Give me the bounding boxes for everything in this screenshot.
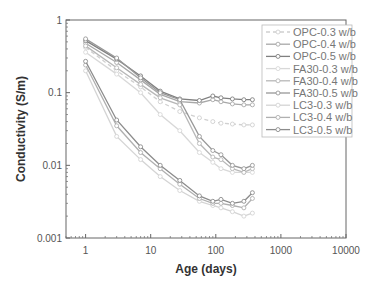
legend-label: LC3-0.3 w/b — [293, 99, 352, 111]
data-point-marker — [242, 214, 246, 218]
y-axis-title: Conductivity (S/m) — [14, 76, 28, 182]
x-tick-label: 1 — [83, 245, 89, 256]
data-point-marker — [115, 124, 119, 128]
legend-marker-icon — [276, 103, 280, 107]
data-point-marker — [178, 129, 182, 133]
series-layer — [84, 37, 255, 218]
data-point-marker — [250, 123, 254, 127]
data-point-marker — [139, 82, 143, 86]
legend-marker-icon — [276, 42, 280, 46]
data-point-marker — [242, 103, 246, 107]
legend-label: OPC-0.3 w/b — [293, 26, 356, 38]
legend-marker-icon — [276, 91, 280, 95]
data-point-marker — [178, 110, 182, 114]
x-tick-label: 100 — [207, 245, 224, 256]
data-point-marker — [178, 189, 182, 193]
data-point-marker — [139, 76, 143, 80]
data-point-marker — [115, 66, 119, 70]
data-point-marker — [242, 199, 246, 203]
data-point-marker — [158, 91, 162, 95]
data-point-marker — [139, 91, 143, 95]
data-point-marker — [211, 94, 215, 98]
data-point-marker — [178, 178, 182, 182]
y-axis-ticks: 0.0010.010.11 — [37, 15, 70, 244]
data-point-marker — [211, 199, 215, 203]
series-fa30-0-4-w-b — [84, 44, 255, 174]
data-point-marker — [158, 96, 162, 100]
data-point-marker — [230, 201, 234, 205]
y-tick-label: 0.001 — [37, 233, 62, 244]
data-point-marker — [250, 98, 254, 102]
data-point-marker — [242, 123, 246, 127]
data-point-marker — [211, 149, 215, 153]
legend-marker-icon — [276, 128, 280, 132]
data-point-marker — [219, 100, 223, 104]
data-point-marker — [84, 59, 88, 63]
legend-label: OPC-0.5 w/b — [293, 50, 356, 62]
data-point-marker — [115, 134, 119, 138]
legend: OPC-0.3 w/bOPC-0.4 w/bOPC-0.5 w/bFA30-0.… — [262, 25, 358, 137]
data-point-marker — [211, 160, 215, 164]
data-point-marker — [197, 141, 201, 145]
data-point-marker — [139, 145, 143, 149]
data-point-marker — [211, 120, 215, 124]
data-point-marker — [230, 210, 234, 214]
legend-marker-icon — [276, 79, 280, 83]
data-point-marker — [250, 211, 254, 215]
series-line — [86, 61, 253, 203]
legend-label: LC3-0.4 w/b — [293, 111, 352, 123]
series-opc-0-5-w-b — [84, 39, 255, 103]
data-point-marker — [242, 98, 246, 102]
legend-marker-icon — [276, 115, 280, 119]
data-point-marker — [219, 197, 223, 201]
x-axis-title: Age (days) — [175, 262, 236, 276]
legend-marker-icon — [276, 30, 280, 34]
data-point-marker — [230, 102, 234, 106]
x-tick-label: 10 — [145, 245, 157, 256]
data-point-marker — [115, 118, 119, 122]
legend-label: OPC-0.4 w/b — [293, 38, 356, 50]
data-point-marker — [139, 158, 143, 162]
legend-label: LC3-0.5 w/b — [293, 124, 352, 136]
data-point-marker — [219, 201, 223, 205]
data-point-marker — [219, 153, 223, 157]
data-point-marker — [219, 96, 223, 100]
data-point-marker — [242, 167, 246, 171]
data-point-marker — [115, 56, 119, 60]
data-point-marker — [219, 158, 223, 162]
legend-marker-icon — [276, 67, 280, 71]
data-point-marker — [250, 103, 254, 107]
data-point-marker — [250, 196, 254, 200]
legend-label: FA30-0.4 w/b — [293, 75, 358, 87]
data-point-marker — [158, 163, 162, 167]
y-tick-label: 0.1 — [48, 87, 62, 98]
data-point-marker — [219, 167, 223, 171]
data-point-marker — [250, 163, 254, 167]
series-line — [86, 71, 253, 216]
series-opc-0-4-w-b — [84, 41, 255, 107]
data-point-marker — [139, 151, 143, 155]
y-tick-label: 1 — [56, 15, 62, 26]
data-point-marker — [158, 100, 162, 104]
chart: 110100100010000 0.0010.010.11 Age (days)… — [0, 0, 374, 289]
data-point-marker — [250, 191, 254, 195]
data-point-marker — [197, 116, 201, 120]
legend-label: FA30-0.3 w/b — [293, 63, 358, 75]
data-point-marker — [242, 206, 246, 210]
data-point-marker — [197, 151, 201, 155]
legend-label: FA30-0.5 w/b — [293, 87, 358, 99]
data-point-marker — [219, 206, 223, 210]
legend-marker-icon — [276, 54, 280, 58]
series-lc3-0-4-w-b — [84, 63, 255, 210]
x-tick-label: 10000 — [332, 245, 360, 256]
data-point-marker — [211, 155, 215, 159]
series-line — [86, 52, 253, 172]
data-point-marker — [178, 98, 182, 102]
data-point-marker — [197, 194, 201, 198]
series-line — [86, 65, 253, 208]
data-point-marker — [84, 44, 88, 48]
data-point-marker — [84, 37, 88, 41]
data-point-marker — [230, 163, 234, 167]
data-point-marker — [158, 113, 162, 117]
data-point-marker — [219, 121, 223, 125]
